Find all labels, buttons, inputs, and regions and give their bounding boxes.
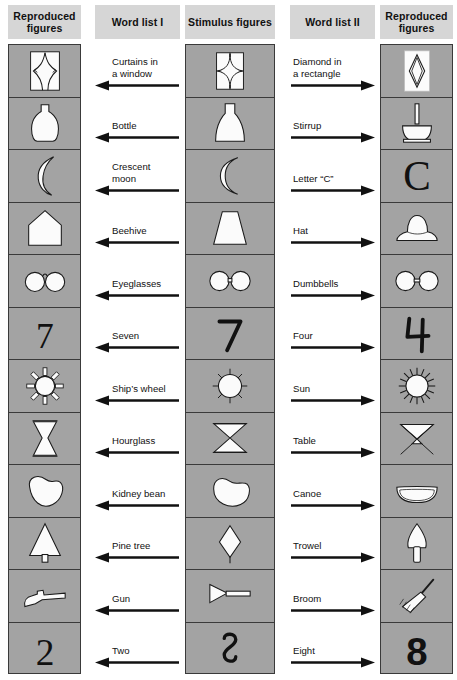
stimulus-cell-6 xyxy=(186,308,274,361)
figure-crescent-shape xyxy=(186,150,274,202)
arrow-left-icon-4 xyxy=(95,237,179,246)
arrow-right-icon-9 xyxy=(291,500,375,509)
reproduced-right-cell-10 xyxy=(381,518,452,571)
figure-pine-tree xyxy=(9,518,80,570)
column-header-reproduced-left-label: Reproduced figures xyxy=(8,10,81,34)
column-stimulus-figures xyxy=(185,44,275,674)
reproduced-right-cell-6 xyxy=(381,308,452,361)
arrow-left-icon-7 xyxy=(95,395,179,404)
word-list-2-label-6: Four xyxy=(293,330,313,342)
arrow-left-icon-12 xyxy=(95,657,179,666)
word-list-2-label-12: Eight xyxy=(293,645,315,657)
figure-four-pointed-star-in-square xyxy=(186,45,274,97)
figure-dumbbells xyxy=(381,255,452,307)
word-list-1-label-12: Two xyxy=(112,645,130,657)
word-list-1-label-11: Gun xyxy=(112,593,130,605)
figure-kidney-bean-shape xyxy=(186,465,274,517)
word-list-1-label-8: Hourglass xyxy=(112,435,155,447)
column-word-list-2: Diamond in a rectangleStirrupLetter “C”H… xyxy=(290,44,375,674)
figure-broom xyxy=(381,570,452,622)
figure-table xyxy=(381,413,452,465)
arrow-left-icon-3 xyxy=(95,185,179,194)
reproduced-right-cell-2 xyxy=(381,98,452,151)
column-header-word-list-1-label: Word list I xyxy=(110,16,166,28)
word-list-2-row-6: Four xyxy=(290,307,375,360)
reproduced-left-cell-10 xyxy=(9,518,80,571)
svg-text:8: 8 xyxy=(406,630,427,673)
figure-stirrup xyxy=(381,98,452,150)
column-header-word-list-2: Word list II xyxy=(290,5,375,39)
figure-trapezoid xyxy=(186,203,274,255)
word-list-1-row-2: Bottle xyxy=(95,97,180,150)
figure-crescent-moon xyxy=(9,150,80,202)
stimulus-cell-4 xyxy=(186,203,274,256)
figure-bottle xyxy=(9,98,80,150)
arrow-right-icon-8 xyxy=(291,447,375,456)
reproduced-left-cell-5 xyxy=(9,255,80,308)
word-list-1-label-3: Crescent moon xyxy=(112,161,150,184)
arrow-right-icon-12 xyxy=(291,657,375,666)
figure-eyeglasses xyxy=(9,255,80,307)
arrow-right-icon-6 xyxy=(291,342,375,351)
word-list-1-label-1: Curtains in a window xyxy=(112,56,158,79)
arrow-left-icon-10 xyxy=(95,552,179,561)
reproduced-right-cell-5 xyxy=(381,255,452,308)
reproduced-left-cell-11 xyxy=(9,570,80,623)
figure-ships-wheel xyxy=(9,360,80,412)
arrow-left-icon-1 xyxy=(95,80,179,89)
figure-numeral-4 xyxy=(381,308,452,360)
arrow-right-icon-7 xyxy=(291,395,375,404)
word-list-2-row-7: Sun xyxy=(290,359,375,412)
word-list-1-row-11: Gun xyxy=(95,569,180,622)
word-list-2-label-9: Canoe xyxy=(293,488,321,500)
reproduced-right-cell-4 xyxy=(381,203,452,256)
word-list-1-label-7: Ship’s wheel xyxy=(112,383,166,395)
reproduced-right-cell-12: 8 xyxy=(381,623,452,676)
stimulus-cell-12 xyxy=(186,623,274,676)
word-list-2-row-12: Eight xyxy=(290,622,375,675)
word-list-2-row-8: Table xyxy=(290,412,375,465)
word-list-1-row-5: Eyeglasses xyxy=(95,254,180,307)
reproduced-right-cell-8 xyxy=(381,413,452,466)
column-word-list-1: Curtains in a windowBottleCrescent moonB… xyxy=(95,44,180,674)
word-list-2-row-9: Canoe xyxy=(290,464,375,517)
reproduced-left-cell-7 xyxy=(9,360,80,413)
figure-hourglass-in-rectangle xyxy=(186,413,274,465)
word-list-2-row-11: Broom xyxy=(290,569,375,622)
arrow-left-icon-11 xyxy=(95,605,179,614)
word-list-2-row-4: Hat xyxy=(290,202,375,255)
stimulus-cell-5 xyxy=(186,255,274,308)
column-reproduced-left: 72 xyxy=(8,44,81,674)
arrow-left-icon-8 xyxy=(95,447,179,456)
word-list-1-row-6: Seven xyxy=(95,307,180,360)
figure-triangle-with-bar xyxy=(186,570,274,622)
word-list-2-row-2: Stirrup xyxy=(290,97,375,150)
stimulus-cell-8 xyxy=(186,413,274,466)
word-list-1-row-4: Beehive xyxy=(95,202,180,255)
figure-gun xyxy=(9,570,80,622)
figure-numeral-8: 8 xyxy=(381,623,452,676)
reproduced-left-cell-8 xyxy=(9,413,80,466)
reproduced-left-cell-12: 2 xyxy=(9,623,80,676)
word-list-2-row-3: Letter “C” xyxy=(290,149,375,202)
word-list-1-label-2: Bottle xyxy=(112,120,137,132)
figure-curtains-in-window xyxy=(9,45,80,97)
word-list-2-label-1: Diamond in a rectangle xyxy=(293,56,342,79)
word-list-1-label-5: Eyeglasses xyxy=(112,278,161,290)
stimulus-cell-2 xyxy=(186,98,274,151)
word-list-2-label-4: Hat xyxy=(293,225,308,237)
column-header-stimulus-label: Stimulus figures xyxy=(186,16,274,28)
word-list-2-label-2: Stirrup xyxy=(293,120,321,132)
word-list-2-label-10: Trowel xyxy=(293,540,321,552)
column-header-reproduced-left: Reproduced figures xyxy=(8,5,81,39)
column-header-reproduced-right-label: Reproduced figures xyxy=(380,10,453,34)
stimulus-cell-11 xyxy=(186,570,274,623)
word-list-1-row-8: Hourglass xyxy=(95,412,180,465)
figure-flask-shape xyxy=(186,98,274,150)
word-list-1-row-1: Curtains in a window xyxy=(95,44,180,97)
word-list-2-label-11: Broom xyxy=(293,593,321,605)
word-list-1-row-10: Pine tree xyxy=(95,517,180,570)
arrow-left-icon-5 xyxy=(95,290,179,299)
arrow-right-icon-5 xyxy=(291,290,375,299)
svg-text:7: 7 xyxy=(36,317,54,357)
